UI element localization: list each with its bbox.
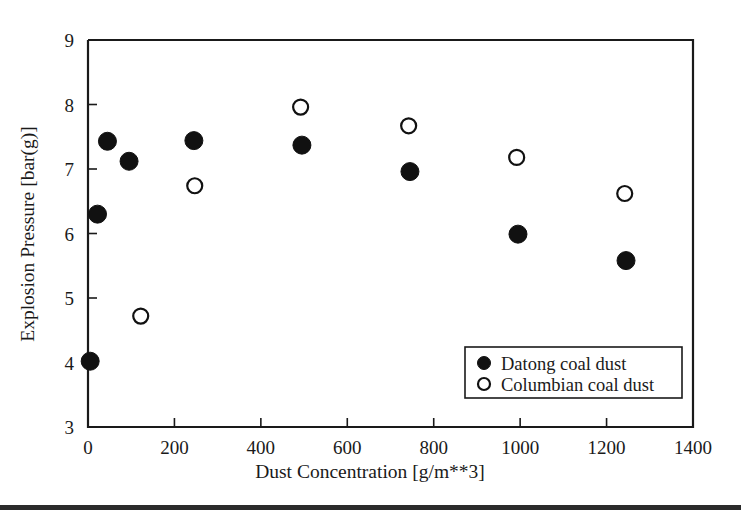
- x-axis-ticks: [88, 418, 693, 427]
- data-point-filled-circle: [509, 225, 527, 243]
- page-bottom-rule: [0, 505, 741, 510]
- y-tick-label: 4: [65, 353, 75, 374]
- data-point-filled-circle: [293, 136, 311, 154]
- x-tick-label: 800: [419, 437, 448, 458]
- y-axis-title: Explosion Pressure [bar(g)]: [17, 126, 39, 342]
- series-2: [133, 100, 632, 324]
- scatter-plot: 3456789 0200400600800100012001400 Dust C…: [0, 0, 741, 519]
- data-point-filled-circle: [98, 132, 116, 150]
- y-tick-label: 5: [65, 288, 75, 309]
- data-point-filled-circle: [81, 352, 99, 370]
- legend-marker-filled-circle: [478, 357, 491, 370]
- data-point-open-circle: [133, 309, 148, 324]
- legend-label-datong: Datong coal dust: [501, 354, 627, 374]
- data-point-open-circle: [509, 150, 524, 165]
- legend: Datong coal dust Columbian coal dust: [465, 347, 682, 398]
- legend-marker-open-circle: [478, 378, 490, 390]
- data-point-filled-circle: [120, 152, 138, 170]
- data-point-filled-circle: [89, 205, 107, 223]
- x-tick-label: 400: [247, 437, 276, 458]
- y-tick-label: 3: [65, 417, 75, 438]
- data-point-filled-circle: [185, 132, 203, 150]
- data-point-open-circle: [401, 118, 416, 133]
- y-axis-tick-labels: 3456789: [65, 30, 75, 438]
- data-point-open-circle: [187, 178, 202, 193]
- data-point-open-circle: [293, 100, 308, 115]
- x-tick-label: 0: [83, 437, 93, 458]
- figure-container: 3456789 0200400600800100012001400 Dust C…: [0, 0, 741, 519]
- data-point-filled-circle: [401, 163, 419, 181]
- y-tick-label: 9: [65, 30, 75, 51]
- x-tick-label: 200: [160, 437, 189, 458]
- x-tick-label: 1400: [674, 437, 712, 458]
- y-tick-label: 6: [65, 224, 75, 245]
- y-tick-label: 8: [65, 95, 75, 116]
- x-tick-label: 1000: [501, 437, 539, 458]
- data-point-open-circle: [617, 186, 632, 201]
- data-point-filled-circle: [617, 252, 635, 270]
- x-axis-tick-labels: 0200400600800100012001400: [83, 437, 712, 458]
- y-tick-label: 7: [65, 159, 75, 180]
- x-tick-label: 600: [333, 437, 362, 458]
- series-1: [81, 132, 635, 371]
- x-axis-title: Dust Concentration [g/m**3]: [255, 461, 485, 482]
- data-points-layer: [81, 100, 635, 371]
- x-tick-label: 1200: [588, 437, 626, 458]
- legend-label-columbian: Columbian coal dust: [501, 375, 655, 395]
